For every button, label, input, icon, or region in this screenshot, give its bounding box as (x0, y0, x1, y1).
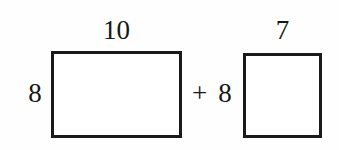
rectangle-2-shape (243, 53, 322, 138)
rectangle-1-top-label: 10 (51, 17, 182, 44)
math-figure: 10 8 + 8 7 (0, 0, 339, 150)
rectangle-2-top-label: 7 (243, 17, 322, 44)
rectangle-1-left-label: 8 (24, 80, 46, 107)
plus-operator-icon: + (189, 80, 210, 107)
rectangle-1-shape (51, 51, 182, 138)
rectangle-2-left-label: 8 (214, 80, 236, 107)
